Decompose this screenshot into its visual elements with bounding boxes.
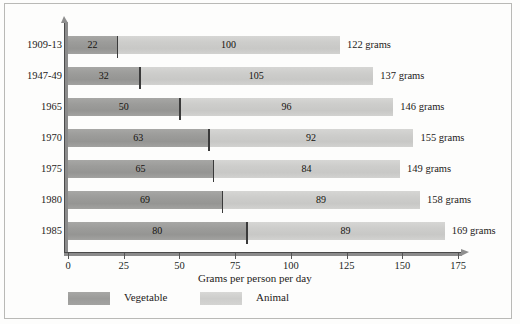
x-axis-title: Grams per person per day xyxy=(198,272,312,284)
bar-value-vegetable: 50 xyxy=(68,98,179,116)
legend-label-animal: Animal xyxy=(256,291,289,303)
bar-row: 6989158 grams xyxy=(68,191,518,209)
bar-row: 32105137 grams xyxy=(68,67,518,85)
bar-total-label: 146 grams xyxy=(400,98,444,116)
bar-value-animal: 89 xyxy=(246,222,444,240)
legend-label-vegetable: Vegetable xyxy=(124,291,167,303)
x-tick-label: 125 xyxy=(339,260,355,271)
bar-total-label: 158 grams xyxy=(427,191,471,209)
category-label: 1965 xyxy=(41,102,62,113)
bar-value-animal: 100 xyxy=(117,36,340,54)
x-tick xyxy=(402,253,403,259)
legend-swatch-vegetable xyxy=(68,292,110,305)
x-tick-label: 175 xyxy=(450,260,466,271)
bar-total-label: 155 grams xyxy=(420,129,464,147)
x-tick xyxy=(235,253,236,259)
x-tick-label: 75 xyxy=(230,260,241,271)
x-tick-label: 150 xyxy=(394,260,410,271)
bar-row: 8089169 grams xyxy=(68,222,518,240)
bar-value-vegetable: 65 xyxy=(68,160,213,178)
bar-row: 22100122 grams xyxy=(68,36,518,54)
bar-value-vegetable: 63 xyxy=(68,129,208,147)
bar-total-label: 149 grams xyxy=(407,160,451,178)
x-tick xyxy=(347,253,348,259)
bar-value-vegetable: 69 xyxy=(68,191,222,209)
x-tick-label: 25 xyxy=(118,260,129,271)
legend-swatch-animal xyxy=(200,292,242,305)
bar-value-animal: 96 xyxy=(179,98,393,116)
bar-value-animal: 105 xyxy=(139,67,373,85)
bar-total-label: 137 grams xyxy=(380,67,424,85)
category-label: 1970 xyxy=(41,133,62,144)
chart-page: 0255075100125150175 1909-1322100122 gram… xyxy=(0,0,520,324)
bar-value-vegetable: 32 xyxy=(68,67,139,85)
bar-value-animal: 92 xyxy=(208,129,413,147)
bar-total-label: 122 grams xyxy=(347,36,391,54)
bar-row: 5096146 grams xyxy=(68,98,518,116)
bar-value-vegetable: 22 xyxy=(68,36,117,54)
x-tick xyxy=(179,253,180,259)
x-tick xyxy=(68,253,69,259)
category-label: 1985 xyxy=(41,226,62,237)
x-tick xyxy=(291,253,292,259)
x-tick-label: 0 xyxy=(65,260,70,271)
category-label: 1909-13 xyxy=(27,40,62,51)
bar-value-animal: 84 xyxy=(213,160,400,178)
category-label: 1947-49 xyxy=(27,71,62,82)
stacked-bar-chart: 0255075100125150175 1909-1322100122 gram… xyxy=(0,0,520,324)
x-tick xyxy=(458,253,459,259)
category-label: 1975 xyxy=(41,164,62,175)
bar-value-animal: 89 xyxy=(222,191,420,209)
bar-value-vegetable: 80 xyxy=(68,222,246,240)
bar-total-label: 169 grams xyxy=(452,222,496,240)
bar-row: 6392155 grams xyxy=(68,129,518,147)
x-tick xyxy=(124,253,125,259)
x-tick-label: 100 xyxy=(283,260,299,271)
x-tick-label: 50 xyxy=(174,260,185,271)
category-label: 1980 xyxy=(41,195,62,206)
bar-row: 6584149 grams xyxy=(68,160,518,178)
